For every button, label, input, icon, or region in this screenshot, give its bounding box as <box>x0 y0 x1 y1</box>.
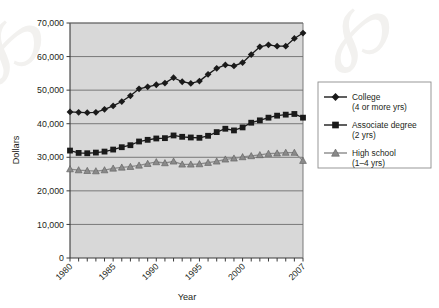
legend-label-secondary: (1–4 yrs) <box>352 158 385 168</box>
y-tick-label: 0 <box>59 253 64 263</box>
x-tick-label: 2000 <box>226 261 247 282</box>
chart-figure: ℘ ℘ 010,00020,00030,00040,00050,00060,00… <box>0 0 439 308</box>
x-tick-label: 1990 <box>140 261 161 282</box>
y-tick-label: 20,000 <box>37 186 64 196</box>
x-tick-label: 1985 <box>97 261 118 282</box>
y-axis-title: Dollars <box>11 135 21 164</box>
y-tick-label: 50,000 <box>37 85 64 95</box>
x-axis-title: Year <box>178 292 197 302</box>
x-tick-label: 1980 <box>53 261 74 282</box>
x-tick-label: 2007 <box>286 261 307 282</box>
y-tick-label: 60,000 <box>37 52 64 62</box>
x-tick-label: 1995 <box>183 261 204 282</box>
plot-area-background <box>70 23 303 258</box>
legend-label-primary: High school <box>352 148 396 158</box>
legend-label-secondary: (2 yrs) <box>352 130 376 140</box>
legend-label-secondary: (4 or more yrs) <box>352 102 407 112</box>
y-axis-tick-labels: 010,00020,00030,00040,00050,00060,00070,… <box>37 18 64 263</box>
legend-label-primary: Associate degree <box>352 120 417 130</box>
legend-label-primary: College <box>352 92 381 102</box>
y-tick-label: 40,000 <box>37 119 64 129</box>
chart-legend: College(4 or more yrs)Associate degree(2… <box>318 82 431 168</box>
y-tick-label: 10,000 <box>37 220 64 230</box>
y-tick-label: 30,000 <box>37 152 64 162</box>
x-axis-tick-labels: 198019851990199520002007 <box>53 261 307 282</box>
chart-canvas: 010,00020,00030,00040,00050,00060,00070,… <box>0 0 439 308</box>
y-tick-label: 70,000 <box>37 18 64 28</box>
